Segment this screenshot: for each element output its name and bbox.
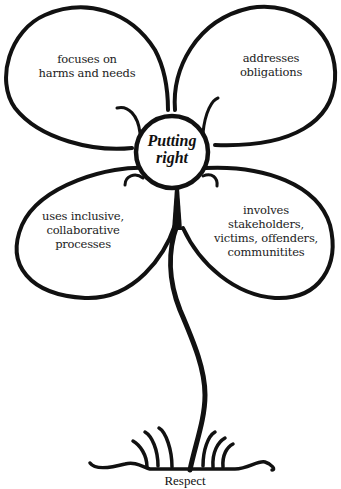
tendril-top-left [117, 107, 140, 133]
petal-label-line: processes [23, 237, 143, 251]
petal-label-top-left: focuses on harms and needs [22, 52, 152, 80]
petal-label-line: involves [205, 203, 327, 217]
grass-blade [159, 428, 172, 467]
center-label-line: right [130, 149, 214, 166]
center-label-line: Putting [130, 132, 214, 149]
center-label: Putting right [130, 132, 214, 166]
petal-label-bottom-right: involves stakeholders, victims, offender… [205, 203, 327, 259]
petal-label-line: uses inclusive, [23, 209, 143, 223]
petal-label-line: addresses [216, 51, 326, 65]
tendril-top-right [203, 98, 218, 133]
ground-label: Respect [140, 473, 230, 489]
petal-label-line: collaborative [23, 223, 143, 237]
tendril-bottom-left [125, 175, 143, 185]
tendril-bottom-right [203, 175, 217, 186]
petal-label-line: victims, offenders, [205, 231, 327, 245]
petal-label-top-right: addresses obligations [216, 51, 326, 79]
grass-blade [223, 444, 233, 467]
stem [171, 225, 205, 470]
petal-label-bottom-left: uses inclusive, collaborative processes [23, 209, 143, 251]
petal-label-line: focuses on [22, 52, 152, 66]
ground-line-left [90, 462, 274, 470]
petal-label-line: obligations [216, 65, 326, 79]
petal-label-line: harms and needs [22, 66, 152, 80]
petal-label-line: communitites [205, 245, 327, 259]
petal-label-line: stakeholders, [205, 217, 327, 231]
